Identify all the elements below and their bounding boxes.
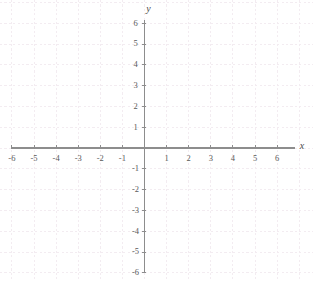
x-tick-label: 3 <box>209 153 213 163</box>
coordinate-plane: -6-5-4-3-2-1123456 654321-1-2-3-4-5-6 x … <box>0 0 313 282</box>
x-tick-label: -6 <box>8 153 15 163</box>
y-tick-label: -1 <box>132 163 139 173</box>
y-tick-label: 1 <box>133 122 137 132</box>
x-tick-label: 4 <box>231 153 236 163</box>
x-tick-label: 6 <box>275 153 279 163</box>
x-tick-label: 2 <box>187 153 191 163</box>
coordinate-grid-svg: -6-5-4-3-2-1123456 654321-1-2-3-4-5-6 x … <box>0 0 313 282</box>
x-tick-label: -4 <box>53 153 61 163</box>
canvas-background <box>0 0 313 282</box>
y-tick-label: 5 <box>133 38 137 48</box>
y-tick-label: 6 <box>133 18 137 28</box>
y-tick-label: 3 <box>133 80 137 90</box>
x-tick-label: -1 <box>119 153 126 163</box>
y-tick-label: -5 <box>132 246 139 256</box>
x-tick-label: -5 <box>30 153 37 163</box>
x-tick-label: -2 <box>97 153 104 163</box>
y-tick-label: -2 <box>132 184 139 194</box>
y-tick-label: -3 <box>132 205 139 215</box>
x-tick-label: 1 <box>164 153 168 163</box>
x-tick-label: -3 <box>75 153 82 163</box>
y-axis-label: y <box>145 3 151 14</box>
y-tick-label: 2 <box>133 101 137 111</box>
x-tick-label: 5 <box>253 153 257 163</box>
y-tick-label: -4 <box>132 226 140 236</box>
y-tick-label: -6 <box>132 267 139 277</box>
x-axis-label: x <box>299 140 305 151</box>
